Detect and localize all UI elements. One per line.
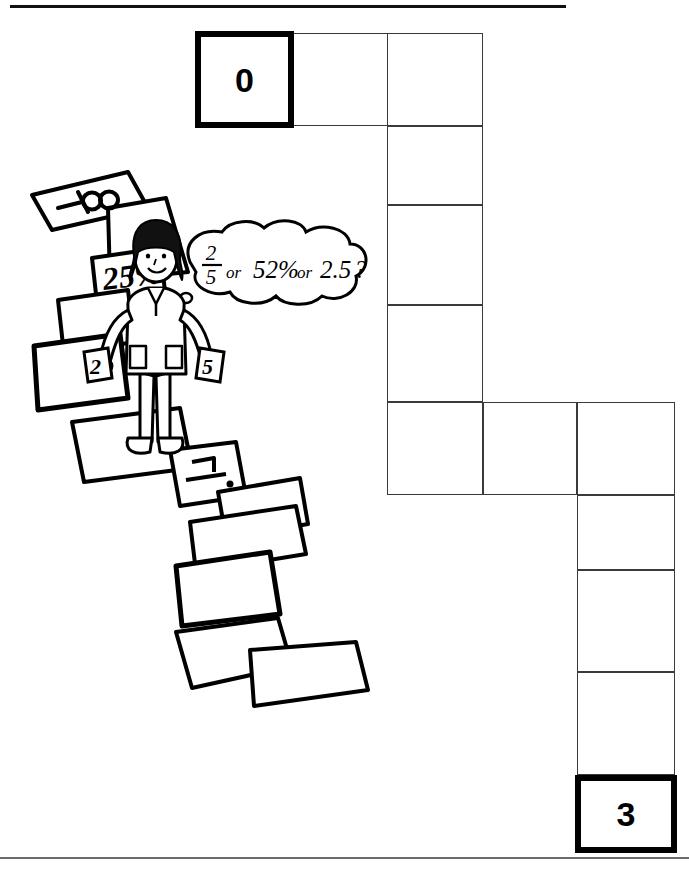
board-cell-r5c4[interactable]	[483, 402, 577, 495]
bubble-fraction-denominator: 5	[206, 265, 217, 289]
board-cell-start[interactable]: 0	[195, 31, 294, 128]
bubble-fraction-numerator: 2	[206, 241, 217, 265]
board-cell-end[interactable]: 3	[575, 775, 677, 853]
bubble-connector-one: or	[226, 263, 242, 282]
bubble-decimal-value: 2.5	[320, 256, 351, 283]
bubble-percent-value: 52%	[253, 256, 299, 283]
board-cell-r1c2[interactable]	[293, 33, 388, 126]
board-cell-r5c3[interactable]	[387, 402, 483, 495]
board-cell-r2c3[interactable]	[387, 126, 483, 205]
worksheet-page: 0 3	[0, 0, 689, 871]
board-cell-r5c5[interactable]	[577, 402, 675, 495]
held-card-right: 5	[196, 348, 224, 382]
bubble-question-mark: ?	[354, 256, 367, 283]
bubble-connector-two: or	[297, 263, 313, 282]
board-cell-r1c3[interactable]	[387, 33, 483, 126]
stone-blank-6	[176, 552, 280, 626]
board-cell-r8c5[interactable]	[577, 672, 675, 775]
horizontal-rule-top	[10, 5, 566, 8]
board-cell-r4c3[interactable]	[387, 305, 483, 402]
stone-blank-8	[250, 642, 368, 706]
board-cell-r7c5[interactable]	[577, 570, 675, 672]
horizontal-rule-bottom	[0, 857, 689, 859]
board-cell-r3c3[interactable]	[387, 205, 483, 305]
held-card-left-label: 2	[89, 354, 101, 379]
held-card-left: 2	[84, 348, 112, 382]
board-cell-end-label: 3	[581, 797, 671, 831]
board-cell-r6c5[interactable]	[577, 495, 675, 570]
illustration-girl-on-stepping-stones: 25% 2 5 or 52% or 2.5 ?	[0, 120, 400, 720]
held-card-right-label: 5	[202, 354, 213, 379]
board-cell-start-label: 0	[201, 63, 288, 97]
